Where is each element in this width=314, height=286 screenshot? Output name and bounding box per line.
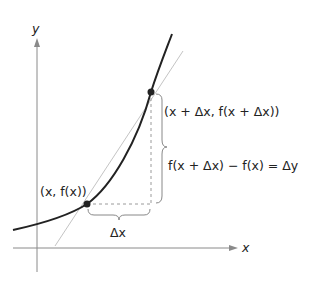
y-axis-arrow-icon [34,38,40,47]
delta-y-label: f(x + Δx) − f(x) = Δy [168,158,299,173]
point-p2-label: (x + Δx, f(x + Δx)) [164,104,279,119]
point-p2 [148,89,155,96]
point-p1 [84,201,91,208]
delta-x-brace [88,209,150,220]
y-axis-label: y [31,21,40,36]
point-p1-label: (x, f(x)) [40,184,87,199]
delta-x-label: Δx [110,225,126,240]
x-axis-label: x [241,240,250,255]
x-axis-arrow-icon [229,245,238,251]
secant-diagram: y x (x, f(x)) (x + Δx, f(x + Δx)) Δx f(x… [0,0,314,286]
